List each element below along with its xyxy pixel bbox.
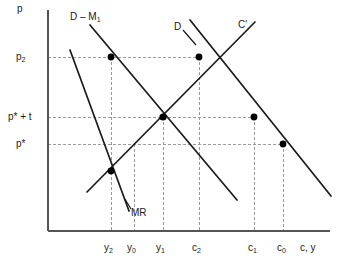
x-tick-y1-sub: 1 — [161, 247, 165, 254]
x-tick-y2-sub: 2 — [109, 247, 113, 254]
x-tick-y0-sub: 0 — [132, 247, 136, 254]
y-tick-label-pstar-t: p* + t — [8, 112, 32, 122]
curves — [70, 20, 331, 211]
axes — [48, 10, 330, 231]
point-c2-p2 — [196, 54, 203, 61]
curve-c-prime-line — [87, 22, 255, 192]
x-tick-label-c1: c1 — [248, 243, 257, 253]
x-tick-c2-sub: 2 — [197, 247, 201, 254]
y-tick-p2-base: p — [16, 51, 22, 62]
leader-d — [183, 30, 196, 45]
chart-canvas — [0, 0, 339, 269]
point-y1-pstar-t — [159, 113, 166, 120]
y-tick-label-pstar: p* — [16, 139, 25, 149]
curve-label-mr: MR — [131, 208, 147, 218]
economics-supply-demand-diagram: p c, y p2 p* + t p* y2 y0 y1 c2 c1 c0 D … — [0, 0, 339, 269]
x-tick-label-y1: y1 — [156, 243, 165, 253]
point-c1-pstar-t — [251, 114, 258, 121]
x-tick-label-c0: c0 — [277, 243, 286, 253]
curve-mr-line — [70, 50, 129, 211]
curve-label-dm1-base: D – M — [70, 11, 97, 22]
point-c0-pstar — [280, 141, 287, 148]
guide-lines — [48, 57, 283, 231]
point-y2-mr-cprime — [108, 168, 115, 175]
curve-label-dm1-sub: 1 — [97, 16, 101, 23]
x-axis-title: c, y — [300, 243, 316, 253]
x-tick-c0-sub: 0 — [282, 247, 286, 254]
y-tick-p2-sub: 2 — [22, 56, 26, 63]
x-tick-label-c2: c2 — [192, 243, 201, 253]
curve-label-d: D — [174, 22, 181, 32]
point-y2-p2 — [108, 54, 115, 61]
y-tick-label-p2: p2 — [16, 52, 25, 62]
curve-label-d-minus-m1: D – M1 — [70, 12, 101, 22]
y-axis-title: p — [17, 4, 23, 14]
x-tick-c1-sub: 1 — [253, 247, 257, 254]
x-tick-label-y2: y2 — [104, 243, 113, 253]
curve-label-c-prime: C′ — [238, 20, 247, 30]
x-tick-label-y0: y0 — [127, 243, 136, 253]
